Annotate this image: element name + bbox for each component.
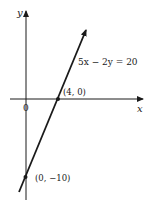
point-y-intercept [24,175,28,179]
origin-label: 0 [23,103,29,113]
y-axis-label: y [16,7,23,18]
x-intercept-label: (4, 0) [63,87,86,97]
equation-label: 5x − 2y = 20 [78,57,138,67]
equation-line [19,30,86,192]
point-x-intercept [56,97,60,101]
y-intercept-label: (0, −10) [35,173,70,183]
line-graph: y x 0 5x − 2y = 20 (4, 0) (0, −10) [0,0,152,206]
x-axis-label: x [137,103,143,114]
